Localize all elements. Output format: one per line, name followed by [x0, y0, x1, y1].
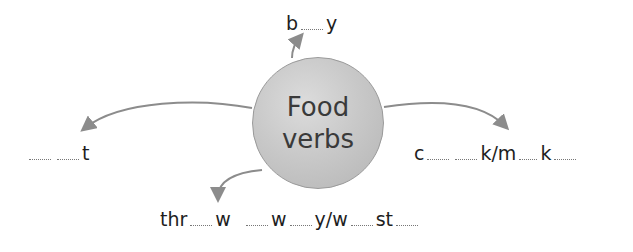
hub-title-line2: verbs — [282, 123, 354, 155]
blank[interactable] — [519, 159, 537, 160]
hub-circle: Food verbs — [252, 57, 384, 189]
blank[interactable] — [554, 159, 576, 160]
arrow-left — [85, 103, 252, 128]
word-top: by — [286, 12, 337, 34]
word-bottom: thrw wy/wst — [160, 208, 421, 230]
word-left: t — [26, 142, 89, 164]
blank[interactable] — [57, 159, 79, 160]
blank[interactable] — [246, 225, 268, 226]
arrow-bottom — [218, 170, 262, 197]
blank[interactable] — [396, 225, 418, 226]
blank[interactable] — [455, 159, 477, 160]
word-right: ck/mk — [414, 142, 579, 164]
blank[interactable] — [427, 159, 449, 160]
hub-title-line1: Food — [287, 91, 349, 123]
blank[interactable] — [351, 225, 373, 226]
blank[interactable] — [190, 225, 212, 226]
arrow-top — [292, 37, 300, 58]
arrow-right — [384, 103, 505, 126]
blank[interactable] — [301, 29, 323, 30]
blank[interactable] — [290, 225, 312, 226]
blank[interactable] — [29, 159, 51, 160]
